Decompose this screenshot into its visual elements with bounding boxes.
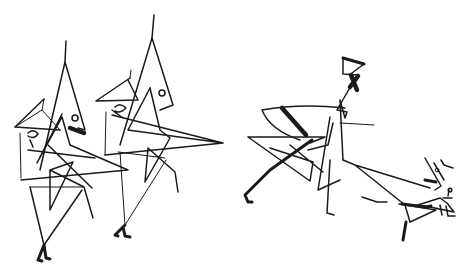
- body-left-edge: [20, 133, 21, 178]
- arm-stick: [340, 123, 374, 125]
- head-x: [350, 75, 358, 90]
- line-drawing: [0, 0, 466, 272]
- eye: [159, 90, 165, 96]
- leg-left: [30, 187, 44, 245]
- eye: [72, 115, 78, 121]
- body-left-edge: [105, 112, 106, 155]
- hat-top: [130, 70, 131, 78]
- face-swirl: [28, 131, 38, 147]
- head-spike: [65, 41, 66, 62]
- foot: [115, 225, 130, 237]
- bird-stripe: [425, 180, 436, 182]
- bird-foot: [403, 222, 406, 240]
- neck: [337, 84, 352, 160]
- star-shape: [50, 162, 93, 218]
- fan-stripe: [282, 108, 306, 135]
- middle-marching-figure: [96, 15, 223, 237]
- fan-triangle: [105, 88, 223, 155]
- leg-left: [120, 152, 125, 225]
- bird-dot: [448, 188, 452, 192]
- bird-leg: [362, 197, 387, 202]
- front-leg: [245, 140, 312, 202]
- small-bird-figure: [362, 158, 455, 240]
- back-leg: [327, 160, 334, 215]
- hip-line: [118, 152, 165, 158]
- hat-brim: [96, 78, 138, 101]
- bird-hat: [425, 158, 453, 190]
- bird-base: [402, 204, 431, 207]
- head-mark: [343, 58, 364, 64]
- hip-tail: [343, 160, 430, 222]
- running-figure-with-fan: [245, 58, 430, 222]
- torso: [308, 117, 340, 190]
- foot: [38, 245, 50, 261]
- head-spike: [152, 15, 154, 38]
- left-marching-figure: [15, 41, 128, 261]
